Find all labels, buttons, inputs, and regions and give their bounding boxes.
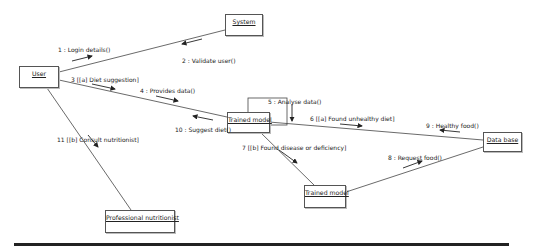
message-label-11: 11 [[b] Consult nutritionist] <box>57 137 139 143</box>
node-trained-model-1[interactable]: Trained model <box>227 112 270 133</box>
node-system-label: System <box>226 18 262 25</box>
message-label-5: 5 : Analyse data() <box>268 99 321 105</box>
message-label-9: 9 : Healthy food() <box>426 123 479 129</box>
arrow-msg-6 <box>340 124 362 126</box>
node-system[interactable]: System <box>225 14 263 36</box>
message-label-1: 1 : Login details() <box>58 47 110 53</box>
node-professional-nutritionist-label: Professional nutritionist <box>106 214 174 221</box>
node-user-label: User <box>20 70 58 77</box>
message-label-6: 6 [[a] Found unhealthy diet] <box>310 116 394 122</box>
arrow-msg-8 <box>403 161 422 168</box>
arrow-msg-9 <box>440 130 460 132</box>
message-label-8: 8 : Request food() <box>388 155 442 161</box>
bottom-divider <box>14 243 509 246</box>
link-trained-model-trained-model <box>260 132 314 185</box>
node-trained-model-2[interactable]: Trained model <box>304 185 346 208</box>
link-user-nutritionist <box>47 88 131 210</box>
message-label-2: 2 : Validate user() <box>182 58 236 64</box>
message-label-4: 4 : Provides data() <box>140 88 195 94</box>
arrow-msg-10 <box>193 116 213 120</box>
node-trained-model-2-label: Trained model <box>305 189 345 196</box>
node-user[interactable]: User <box>19 66 59 88</box>
message-label-3: 3 [[a] Diet suggestion] <box>71 77 139 83</box>
node-data-base[interactable]: Data base <box>483 132 522 152</box>
arrow-msg-1 <box>72 56 92 61</box>
node-trained-model-1-label: Trained model <box>228 116 269 123</box>
arrow-msg-7 <box>279 150 297 163</box>
arrow-msg-4 <box>156 96 178 101</box>
message-label-10: 10 : Suggest diet() <box>175 127 231 133</box>
message-label-7: 7 [[b] Found disease or deficiency] <box>242 145 346 151</box>
node-professional-nutritionist[interactable]: Professional nutritionist <box>105 210 175 233</box>
link-user-trained-model <box>59 80 227 117</box>
node-data-base-label: Data base <box>484 136 521 143</box>
